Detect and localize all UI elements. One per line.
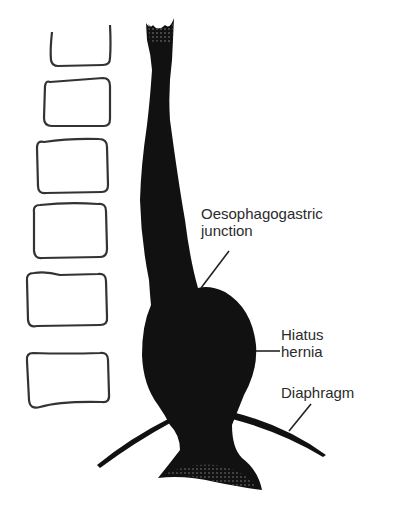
leader-oesophagogastric-junction (201, 251, 229, 288)
vertebra-1 (51, 25, 111, 66)
vertebra-4 (34, 203, 107, 258)
diagram-canvas: Oesophagogastric junction Hiatus hernia … (0, 0, 399, 523)
label-oesophagogastric-line1: Oesophagogastric (201, 205, 323, 222)
label-diaphragm: Diaphragm (281, 384, 354, 401)
vertebra-3 (37, 139, 108, 193)
label-hiatus-hernia: Hiatus hernia (281, 326, 324, 360)
vertebra-2 (44, 78, 110, 126)
label-oesophagogastric-line2: junction (201, 222, 323, 239)
leader-diaphragm (289, 404, 311, 431)
vertebra-5 (27, 272, 107, 326)
label-hiatus-line2: hernia (281, 343, 324, 360)
vertebral-column (27, 25, 111, 408)
anatomy-illustration (0, 0, 399, 523)
vertebra-6 (27, 353, 109, 408)
label-oesophagogastric-junction: Oesophagogastric junction (201, 205, 323, 239)
label-hiatus-line1: Hiatus (281, 326, 324, 343)
